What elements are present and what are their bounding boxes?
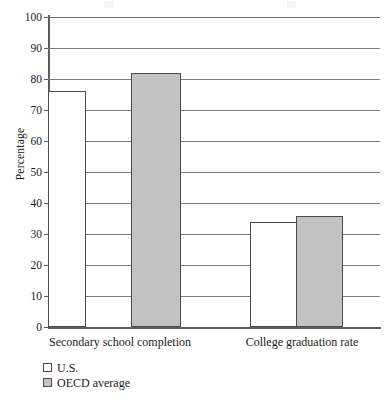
y-tick-label-100: 100	[8, 12, 42, 24]
gridline-80	[48, 79, 380, 80]
legend-swatch-us-icon	[43, 363, 52, 372]
gridline-70	[48, 110, 380, 111]
legend-swatch-oecd-average-icon	[43, 378, 52, 387]
gridline-90	[48, 48, 380, 49]
x-category-label-college-graduation-rate: College graduation rate	[222, 336, 382, 348]
bar-oecd-college-graduation-rate	[296, 216, 343, 327]
plot-area	[48, 17, 380, 327]
scan-artifact	[104, 1, 114, 8]
y-tick-label-0: 0	[8, 322, 42, 334]
y-tick-label-60: 60	[8, 136, 42, 148]
legend-label-oecd-average: OECD average	[57, 377, 130, 389]
legend-item-us: U.S.	[43, 360, 130, 375]
chart-legend: U.S. OECD average	[43, 360, 130, 390]
bar-oecd-secondary-school-completion	[131, 73, 181, 327]
y-tick-label-10: 10	[8, 291, 42, 303]
gridline-60	[48, 141, 380, 142]
gridline-50	[48, 172, 380, 173]
y-tick-label-40: 40	[8, 198, 42, 210]
scan-artifact	[287, 1, 296, 8]
bar-us-college-graduation-rate	[250, 222, 297, 327]
x-axis-line	[48, 327, 381, 329]
y-tick-label-30: 30	[8, 229, 42, 241]
y-tick-label-20: 20	[8, 260, 42, 272]
x-category-label-secondary-school-completion: Secondary school completion	[30, 336, 210, 348]
bar-chart-figure: Percentage 100 90 80 70 60 50 40 30 20 1…	[0, 0, 388, 402]
y-tick-label-80: 80	[8, 74, 42, 86]
gridline-100	[48, 17, 380, 18]
y-tick-label-70: 70	[8, 105, 42, 117]
y-axis-label: Percentage	[14, 109, 26, 199]
gridline-40	[48, 203, 380, 204]
y-tick-label-90: 90	[8, 43, 42, 55]
legend-item-oecd-average: OECD average	[43, 375, 130, 390]
legend-label-us: U.S.	[57, 362, 78, 374]
y-tick-label-50: 50	[8, 167, 42, 179]
bar-us-secondary-school-completion	[48, 91, 86, 327]
